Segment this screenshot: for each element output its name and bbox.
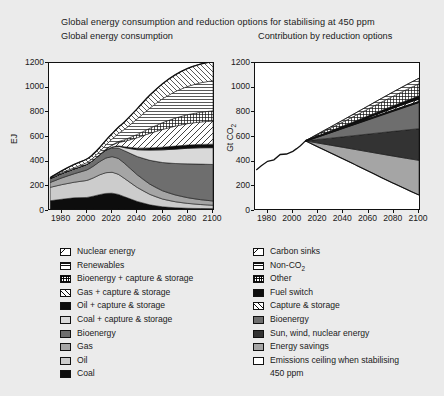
legend-item-label: Emissions ceiling when stabilising: [270, 355, 399, 365]
legend-swatch-pale-grey-icon: [60, 316, 71, 324]
figure-title: Global energy consumption and reduction …: [61, 17, 375, 27]
legend-item[interactable]: Capture & storage: [253, 300, 438, 314]
legend-item-label: Renewables: [77, 260, 124, 270]
right-chart-svg: [255, 63, 419, 209]
legend-item-label: Oil: [77, 355, 88, 365]
legend-item-label: Coal: [77, 368, 95, 378]
legend-item[interactable]: Fuel switch: [253, 287, 438, 301]
legend-item-label: Capture & storage: [270, 300, 340, 310]
legend-item[interactable]: Gas + capture & storage: [60, 287, 220, 301]
legend-swatch-dark-grey-icon: [253, 316, 264, 324]
right-y-tick: 0: [220, 205, 250, 215]
left-y-tick: 200: [14, 180, 44, 190]
right-y-tick: 800: [220, 106, 250, 116]
legend-swatch-horiz-icon: [60, 262, 71, 270]
legend-energy-consumption: Nuclear energyRenewablesBioenergy + capt…: [60, 246, 220, 382]
legend-swatch-mid-grey-icon: [253, 343, 264, 351]
right-x-tickmark: [342, 210, 343, 213]
legend-item[interactable]: Bioenergy + capture & storage: [60, 273, 220, 287]
legend-item-label: Nuclear energy: [77, 246, 135, 256]
legend-swatch-grid-icon: [60, 275, 71, 283]
right-x-tickmark: [292, 210, 293, 213]
right-x-tickmark: [317, 210, 318, 213]
left-x-tickmark: [212, 210, 213, 213]
legend-item[interactable]: Nuclear energy: [60, 246, 220, 260]
right-y-tick: 400: [220, 155, 250, 165]
legend-item-label: Bioenergy: [77, 328, 116, 338]
legend-item[interactable]: Sun, wind, nuclear energy: [253, 328, 438, 342]
legend-item-label: Carbon sinks: [270, 246, 320, 256]
legend-item-label: Gas + capture & storage: [77, 287, 170, 297]
left-x-tickmark: [187, 210, 188, 213]
legend-item-label: Oil + capture & storage: [77, 300, 165, 310]
right-x-tickmark: [267, 210, 268, 213]
legend-item[interactable]: Oil: [60, 355, 220, 369]
legend-swatch-diag-down-icon: [60, 248, 71, 256]
right-y-tick: 1000: [220, 81, 250, 91]
left-y-tick: 800: [14, 106, 44, 116]
right-y-tickmark: [251, 210, 254, 211]
left-x-tickmark: [136, 210, 137, 213]
left-y-tick: 600: [14, 131, 44, 141]
right-x-tickmark: [393, 210, 394, 213]
legend-item[interactable]: Gas: [60, 341, 220, 355]
legend-item-label: Bioenergy + capture & storage: [77, 273, 193, 283]
legend-item[interactable]: Bioenergy: [253, 314, 438, 328]
panel-left-title: Global energy consumption: [61, 31, 173, 41]
legend-item[interactable]: Non-CO2: [253, 260, 438, 274]
left-x-tickmark: [111, 210, 112, 213]
legend-item-label: Fuel switch: [270, 287, 313, 297]
legend-swatch-grid-icon: [253, 275, 264, 283]
right-y-tick: 200: [220, 180, 250, 190]
left-x-tickmark: [86, 210, 87, 213]
left-y-tick: 400: [14, 155, 44, 165]
legend-swatch-dark-grey-icon: [60, 330, 71, 338]
legend-swatch-light-grey-icon: [60, 357, 71, 365]
legend-item-label: Bioenergy: [270, 314, 309, 324]
right-x-tickmark: [418, 210, 419, 213]
legend-item-label: Non-CO2: [270, 260, 305, 272]
right-plot-area: [254, 62, 420, 210]
figure-root: Global energy consumption and reduction …: [0, 0, 444, 396]
left-chart-svg: [49, 63, 213, 209]
left-plot-area: [48, 62, 214, 210]
legend-swatch-mid-grey-icon: [60, 343, 71, 351]
legend-reduction-options: Carbon sinksNon-CO2OtherFuel switchCaptu…: [253, 246, 438, 382]
legend-swatch-black-icon: [60, 370, 71, 378]
legend-item[interactable]: Renewables: [60, 260, 220, 274]
panel-right-title: Contribution by reduction options: [258, 31, 392, 41]
legend-item[interactable]: Energy savings: [253, 341, 438, 355]
right-x-tick: 2100: [403, 213, 433, 223]
right-y-axis-label-subscript: 2: [230, 124, 237, 128]
legend-swatch-very-dark-icon: [253, 330, 264, 338]
legend-item-label: Other: [270, 273, 292, 283]
legend-item[interactable]: Carbon sinks: [253, 246, 438, 260]
left-x-tickmark: [162, 210, 163, 213]
legend-item[interactable]: Bioenergy: [60, 328, 220, 342]
legend-swatch-diag-up-icon: [60, 289, 71, 297]
left-x-tickmark: [61, 210, 62, 213]
legend-item[interactable]: Emissions ceiling when stabilising450 pp…: [253, 355, 438, 382]
right-y-tick: 600: [220, 131, 250, 141]
legend-item[interactable]: Coal: [60, 368, 220, 382]
legend-swatch-horiz-icon: [253, 262, 264, 270]
historical-emissions-line: [256, 141, 305, 170]
legend-item-label: Coal + capture & storage: [77, 314, 172, 324]
legend-item[interactable]: Oil + capture & storage: [60, 300, 220, 314]
legend-item-label: Gas: [77, 341, 93, 351]
right-y-tick: 1200: [220, 57, 250, 67]
left-y-tickmark: [45, 210, 48, 211]
legend-item[interactable]: Other: [253, 273, 438, 287]
legend-item[interactable]: Coal + capture & storage: [60, 314, 220, 328]
left-x-tick: 2100: [197, 213, 227, 223]
legend-item-label-continued: 450 ppm: [270, 368, 303, 378]
legend-item-label: Energy savings: [270, 341, 329, 351]
right-x-tickmark: [368, 210, 369, 213]
legend-swatch-black-icon: [60, 302, 71, 310]
legend-item-label: Sun, wind, nuclear energy: [270, 328, 369, 338]
left-y-tick: 1000: [14, 81, 44, 91]
left-y-tick: 1200: [14, 57, 44, 67]
legend-swatch-diag-up-icon: [253, 302, 264, 310]
legend-swatch-black-icon: [253, 289, 264, 297]
legend-swatch-white-icon: [253, 357, 264, 365]
